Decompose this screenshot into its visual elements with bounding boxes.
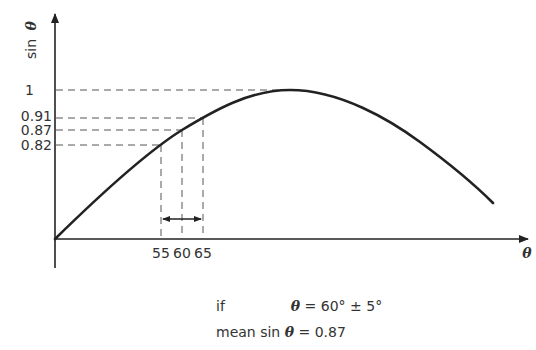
x-tick-60: 60 xyxy=(173,245,191,261)
caption-theta-1: θ xyxy=(291,298,300,314)
caption-line-2: mean sin θ = 0.87 xyxy=(216,324,346,340)
caption-mean-label: mean sin xyxy=(216,324,285,340)
caption-if: if xyxy=(216,298,225,314)
x-axis-title: θ xyxy=(522,245,532,261)
caption-result: = 0.87 xyxy=(294,324,346,340)
y-axis-title: sin θ xyxy=(23,20,39,59)
caption-condition: = 60° ± 5° xyxy=(300,298,382,314)
y-tick-1: 1 xyxy=(25,82,34,98)
x-tick-65: 65 xyxy=(194,245,212,261)
caption-theta-2: θ xyxy=(285,324,294,340)
caption-line-1: ifθ = 60° ± 5° xyxy=(216,298,382,314)
sine-curve xyxy=(55,90,493,239)
y-tick-087: 0.87 xyxy=(21,122,52,138)
x-tick-55: 55 xyxy=(152,245,170,261)
y-tick-082: 0.82 xyxy=(21,137,52,153)
